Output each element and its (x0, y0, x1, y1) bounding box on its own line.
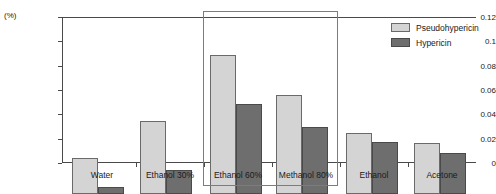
bar-methanol80-hypericin[interactable] (302, 127, 328, 194)
legend-swatch-pseudohypericin-icon (391, 23, 410, 32)
bar-chart: (%) 0.12 0.1 0.08 0.06 0.04 0.02 0 (0, 0, 496, 194)
x-label-methanol-80: Methanol 80% (279, 170, 333, 180)
y-tick-mark-6 (58, 163, 62, 164)
bar-ethanol60-hypericin[interactable] (236, 104, 262, 194)
x-tick-mark-3 (272, 163, 273, 167)
legend: Pseudohypericin Hypericin (388, 18, 483, 54)
x-label-acetone: Acetone (426, 170, 457, 180)
x-tick-mark-4 (340, 163, 341, 167)
legend-item-hypericin[interactable]: Hypericin (391, 36, 479, 49)
y-axis-unit-label: (%) (4, 11, 16, 20)
x-label-ethanol: Ethanol (360, 170, 389, 180)
x-tick-mark-2 (204, 163, 205, 167)
x-tick-mark-1 (136, 163, 137, 167)
x-label-ethanol-30: Ethanol 30% (146, 170, 194, 180)
legend-swatch-hypericin-icon (391, 38, 410, 47)
bar-ethanol30-pseudohypericin[interactable] (140, 121, 166, 194)
bar-ethanol-pseudohypericin[interactable] (346, 133, 372, 194)
x-label-ethanol-60: Ethanol 60% (214, 170, 262, 180)
bar-water-hypericin[interactable] (98, 187, 124, 194)
bar-acetone-pseudohypericin[interactable] (414, 143, 440, 194)
legend-label-hypericin: Hypericin (416, 38, 451, 48)
x-label-water: Water (91, 170, 113, 180)
legend-label-pseudohypericin: Pseudohypericin (416, 23, 479, 33)
x-tick-mark-5 (408, 163, 409, 167)
legend-item-pseudohypericin[interactable]: Pseudohypericin (391, 21, 479, 34)
bar-ethanol-hypericin[interactable] (372, 142, 398, 194)
